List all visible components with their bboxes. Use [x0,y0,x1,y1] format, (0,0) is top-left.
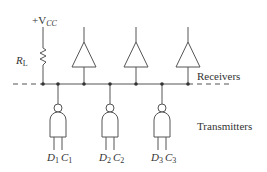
open-collector-bus-diagram: +VCC RL [0,0,267,172]
receivers-label: Receivers [197,70,240,82]
transmitter-1-inputs-label: D1C1 [46,151,72,165]
svg-text:D3C3: D3C3 [150,151,176,165]
svg-text:D2C2: D2C2 [98,151,124,165]
pull-up-resistor: +VCC RL [15,14,57,84]
receiver-1 [72,27,96,84]
transmitter-3-inputs-label: D3C3 [150,151,176,165]
rl-label: RL [15,54,28,68]
transmitter-1 [50,84,66,150]
transmitter-2 [102,84,118,150]
transmitter-3 [154,84,170,150]
transmitter-2-inputs-label: D2C2 [98,151,124,165]
vcc-label: +VCC [32,14,57,28]
transmitters-label: Transmitters [197,120,252,132]
svg-text:D1C1: D1C1 [46,151,72,165]
receiver-2 [124,27,148,84]
